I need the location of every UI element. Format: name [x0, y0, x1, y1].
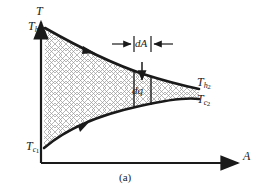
cold-inlet-sub2: 1 [36, 147, 39, 155]
cold-outlet-temperature-label: Tc2 [197, 93, 211, 105]
cold-inlet-base: T [26, 139, 33, 153]
hot-outlet-base: T [197, 75, 204, 89]
hot-inlet-sub2: 1 [38, 27, 41, 35]
hot-stream-flow-arrow [82, 46, 95, 54]
heat-element-label: dq [132, 85, 143, 96]
figure-container: T A Th1 Tc1 Th2 Tc2 dA dq (a) [0, 0, 263, 196]
cold-outlet-sub2: 2 [207, 100, 210, 108]
hot-inlet-base: T [28, 19, 35, 33]
hatched-region [40, 20, 210, 160]
hot-inlet-temperature-label: Th1 [28, 20, 42, 32]
area-axis-label: A [243, 150, 250, 162]
cold-outlet-base: T [197, 92, 204, 106]
hot-outlet-sub2: 2 [207, 83, 210, 91]
temperature-axis-label: T [36, 5, 43, 17]
cold-inlet-temperature-label: Tc1 [26, 140, 40, 152]
hot-outlet-temperature-label: Th2 [197, 76, 211, 88]
figure-caption: (a) [119, 172, 131, 183]
area-element-label: dA [135, 38, 147, 49]
